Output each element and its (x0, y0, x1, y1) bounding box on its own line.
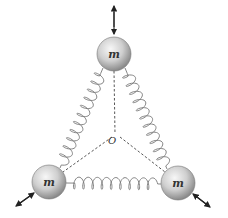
mass-top: m (97, 37, 131, 71)
dashed-lines (63, 71, 165, 172)
mass-label: m (172, 177, 184, 190)
coupled-oscillator-diagram: m m m O (0, 0, 228, 218)
mass-bottom-right: m (161, 166, 195, 200)
spring-coil (123, 68, 170, 169)
center-label-o: O (108, 135, 116, 146)
spring-coil (66, 177, 161, 190)
mass-bottom-left: m (32, 165, 66, 199)
spring-coil (59, 68, 103, 168)
mass-label: m (108, 48, 120, 61)
mass-label: m (43, 176, 55, 189)
